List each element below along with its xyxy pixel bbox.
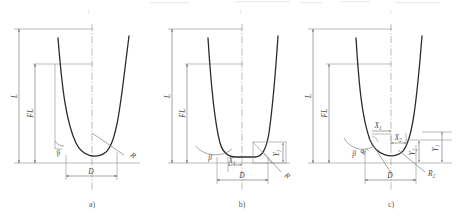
label-a-FL: FL [26, 109, 35, 119]
caption-c: c) [388, 200, 395, 209]
label-c-L: L [304, 94, 313, 99]
label-c-R2: R2 [427, 169, 436, 179]
corner-diagonal-b [253, 142, 272, 163]
label-c-FL: FL [320, 109, 329, 119]
label-c-Y1: Y1 [431, 144, 441, 151]
label-c-R1: R1 [358, 145, 371, 157]
profile-curve-a [58, 36, 129, 156]
r1-arc-c [372, 136, 378, 142]
scan-noise [88, 1, 440, 14]
profile-curve-c [356, 36, 422, 156]
label-b-beta: β [207, 153, 212, 162]
label-c-beta: β [351, 149, 356, 158]
label-a-L: L [10, 94, 19, 99]
label-b-FL: FL [178, 109, 187, 119]
label-b-R: R [282, 170, 292, 181]
beta-arc-a [55, 141, 64, 146]
radius-leader-a [92, 133, 124, 155]
panel-c: L FL β R1 R2 X1 X2 Y2 Y1 [304, 24, 452, 209]
label-a-D: D [87, 167, 94, 176]
drawing-sheet: L FL β R D a) L FL β [0, 0, 458, 216]
panel-b: L FL β R Y1 X1 D b) [163, 24, 292, 209]
label-c-D: D [386, 171, 393, 180]
label-b-L: L [163, 94, 172, 99]
label-b-Y1: Y1 [272, 149, 282, 156]
profile-curve-b [208, 36, 278, 157]
label-c-X2: X2 [393, 133, 402, 143]
caption-a: a) [89, 200, 96, 209]
label-c-X1: X1 [373, 121, 382, 131]
panel-a: L FL β R D a) [10, 24, 140, 209]
label-a-R: R [128, 150, 138, 161]
label-b-D: D [238, 171, 245, 180]
caption-b: b) [239, 200, 246, 209]
